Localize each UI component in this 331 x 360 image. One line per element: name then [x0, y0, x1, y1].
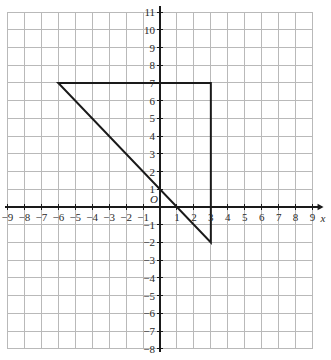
- x-tick-label: −5: [69, 212, 81, 223]
- y-tick-label: −5: [143, 290, 155, 301]
- x-tick-label: 7: [276, 212, 282, 223]
- x-tick-label: 2: [191, 212, 197, 223]
- x-tick-label: 5: [242, 212, 248, 223]
- x-tick-label: −7: [35, 212, 47, 223]
- x-tick-label: 4: [225, 212, 231, 223]
- x-tick-label: 6: [259, 212, 265, 223]
- y-tick-label: −8: [143, 343, 155, 354]
- origin-label: O: [150, 193, 158, 205]
- y-tick-label: 10: [144, 24, 155, 35]
- y-tick-label: 8: [150, 60, 156, 71]
- x-tick-label: 3: [208, 212, 214, 223]
- x-tick-label: 1: [174, 212, 180, 223]
- y-tick-label: 5: [150, 113, 156, 124]
- y-tick-label: −7: [143, 326, 155, 337]
- y-tick-label: −2: [143, 237, 155, 248]
- y-tick-label: −4: [143, 272, 155, 283]
- x-tick-label: −8: [19, 212, 31, 223]
- y-tick-label: 11: [144, 7, 155, 18]
- y-tick-label: 9: [150, 42, 156, 53]
- x-tick-label: −3: [103, 212, 115, 223]
- y-tick-label: 4: [150, 131, 156, 142]
- y-tick-label: −1: [143, 219, 155, 230]
- y-tick-label: −3: [143, 255, 155, 266]
- x-tick-label: −4: [86, 212, 98, 223]
- y-tick-label: 3: [150, 148, 156, 159]
- x-axis-label: x: [321, 212, 326, 224]
- y-tick-label: 7: [150, 77, 156, 88]
- x-tick-label: 8: [293, 212, 299, 223]
- coordinate-plane: −9−8−7−6−5−4−3−2−11234567891110987654321…: [0, 0, 331, 360]
- x-tick-label: −6: [52, 212, 64, 223]
- x-tick-label: −9: [2, 212, 14, 223]
- y-tick-label: 2: [150, 166, 156, 177]
- x-tick-label: 9: [310, 212, 316, 223]
- axes: [5, 6, 323, 352]
- x-tick-label: −2: [120, 212, 132, 223]
- y-tick-label: −6: [143, 308, 155, 319]
- y-tick-label: 6: [150, 95, 156, 106]
- x-axis-arrow: [318, 204, 324, 210]
- plot-canvas: [0, 0, 331, 360]
